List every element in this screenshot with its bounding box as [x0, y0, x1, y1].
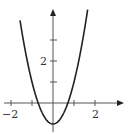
- x-tick-label-2: 2: [92, 108, 99, 121]
- x-axis-arrow-icon: [117, 100, 124, 106]
- y-axis-arrow-icon: [50, 9, 56, 16]
- x-tick-label-neg2: −2: [2, 108, 18, 121]
- parabola-chart: −2 2 2: [0, 0, 128, 134]
- parabola-curve: [20, 10, 88, 124]
- y-tick-label-2: 2: [40, 55, 47, 68]
